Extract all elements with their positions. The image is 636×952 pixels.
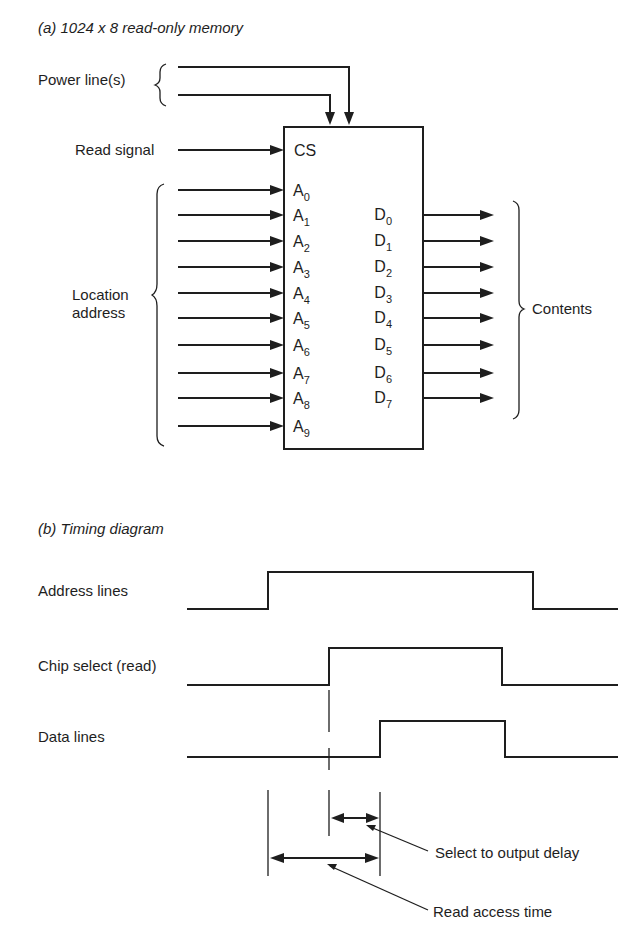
- arrow-icon: [366, 813, 379, 823]
- arrow-icon: [365, 853, 379, 863]
- address-label: address: [72, 304, 125, 321]
- svg-text:D1: D1: [374, 232, 392, 253]
- arrow-icon: [331, 813, 344, 823]
- data-line-d0: D0: [374, 206, 494, 227]
- rom-diagram: (a) 1024 x 8 read-only memory Power line…: [0, 0, 636, 952]
- arrow-icon: [344, 112, 354, 125]
- address-brace: [152, 184, 164, 446]
- part-a-title: (a) 1024 x 8 read-only memory: [38, 19, 245, 36]
- address-line-a5: A5: [178, 310, 310, 331]
- svg-text:D6: D6: [374, 364, 392, 385]
- svg-text:A2: A2: [293, 233, 310, 254]
- power-line-2: [178, 95, 330, 118]
- address-line-a4: A4: [178, 285, 310, 306]
- data-lines-signal-label: Data lines: [38, 728, 105, 745]
- location-label: Location: [72, 286, 129, 303]
- svg-text:D5: D5: [374, 336, 392, 357]
- svg-text:A7: A7: [293, 365, 310, 386]
- address-line-a0: A0: [178, 182, 310, 203]
- svg-text:D0: D0: [374, 206, 392, 227]
- chip-select-signal-label: Chip select (read): [38, 657, 156, 674]
- address-line-a1: A1: [178, 207, 310, 228]
- svg-text:D2: D2: [374, 258, 392, 279]
- chip-select-waveform: [187, 648, 618, 685]
- data-line-d2: D2: [374, 258, 494, 279]
- cs-pin-label: CS: [294, 142, 316, 159]
- svg-text:A8: A8: [293, 390, 310, 411]
- data-line-d3: D3: [374, 284, 494, 305]
- address-line-a6: A6: [178, 337, 310, 358]
- address-line-a7: A7: [178, 365, 310, 386]
- data-line-d6: D6: [374, 364, 494, 385]
- svg-text:D4: D4: [374, 309, 392, 330]
- svg-text:A4: A4: [293, 285, 310, 306]
- data-lines-waveform: [187, 721, 618, 757]
- read-signal-label: Read signal: [75, 141, 154, 158]
- arrow-icon: [325, 112, 335, 125]
- svg-text:A0: A0: [293, 182, 310, 203]
- data-line-d1: D1: [374, 232, 494, 253]
- address-line-a3: A3: [178, 259, 310, 280]
- address-line-a2: A2: [178, 233, 310, 254]
- svg-text:A5: A5: [293, 310, 310, 331]
- data-line-d5: D5: [374, 336, 494, 357]
- address-line-a9: A9: [178, 418, 310, 439]
- arrow-icon: [270, 853, 284, 863]
- data-lines: D0 D1 D2 D3 D4 D5 D6 D7: [374, 206, 494, 410]
- address-lines-waveform: [187, 572, 618, 609]
- contents-label: Contents: [532, 300, 592, 317]
- power-brace: [155, 64, 166, 106]
- read-access-leader: [330, 866, 428, 910]
- select-delay-label: Select to output delay: [435, 844, 580, 861]
- select-delay-leader: [368, 826, 428, 851]
- svg-text:A6: A6: [293, 337, 310, 358]
- read-access-label: Read access time: [433, 903, 552, 920]
- power-lines-label: Power line(s): [38, 71, 126, 88]
- arrow-icon: [270, 145, 284, 155]
- part-b-title: (b) Timing diagram: [38, 520, 164, 537]
- address-line-a8: A8: [178, 390, 310, 411]
- address-lines-signal-label: Address lines: [38, 582, 128, 599]
- data-line-d4: D4: [374, 309, 494, 330]
- data-line-d7: D7: [374, 389, 494, 410]
- svg-text:A3: A3: [293, 259, 310, 280]
- svg-text:A9: A9: [293, 418, 310, 439]
- contents-brace: [513, 201, 524, 419]
- arrow-icon: [366, 825, 376, 831]
- power-line-1: [178, 67, 349, 118]
- svg-text:D7: D7: [374, 389, 392, 410]
- svg-text:D3: D3: [374, 284, 392, 305]
- address-lines: A0 A1 A2 A3 A4 A5 A6 A7 A8 A9: [178, 182, 310, 439]
- svg-text:A1: A1: [293, 207, 310, 228]
